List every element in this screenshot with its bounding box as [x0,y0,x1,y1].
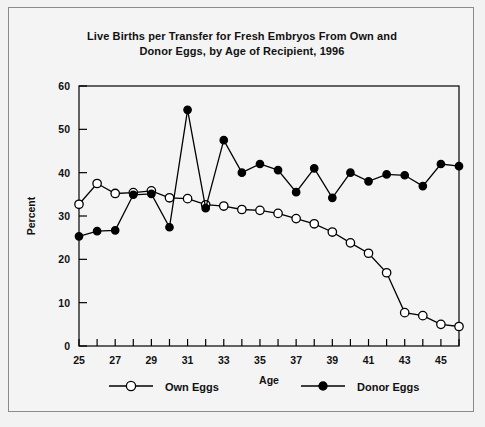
x-tick-label: 33 [218,354,230,366]
data-point-own-eggs [328,228,336,236]
data-point-donor-eggs [383,171,390,178]
data-point-donor-eggs [148,190,155,197]
line-chart-plot: 01020304050602527293133353739414345AgePe… [9,8,475,413]
data-point-own-eggs [401,308,409,316]
x-tick-label: 29 [146,354,158,366]
data-point-own-eggs [455,322,463,330]
data-point-own-eggs [111,189,119,197]
y-tick-label: 10 [58,297,70,309]
data-point-own-eggs [220,202,228,210]
data-point-own-eggs [437,320,445,328]
data-point-donor-eggs [311,165,318,172]
x-tick-label: 45 [435,354,447,366]
series-line-own-eggs [79,184,459,327]
data-point-donor-eggs [419,182,426,189]
y-tick-label: 0 [64,340,70,352]
y-axis-title: Percent [25,196,37,235]
y-tick-label: 40 [58,167,70,179]
data-point-own-eggs [382,269,390,277]
data-point-donor-eggs [455,162,462,169]
data-point-own-eggs [292,214,300,222]
data-point-own-eggs [346,239,354,247]
data-point-donor-eggs [220,136,227,143]
data-point-own-eggs [238,205,246,213]
y-tick-label: 30 [58,210,70,222]
x-tick-label: 27 [109,354,121,366]
x-axis-title: Age [259,374,279,386]
x-tick-label: 37 [290,354,302,366]
x-tick-label: 41 [363,354,375,366]
data-point-own-eggs [256,206,264,214]
legend-label-own-eggs: Own Eggs [165,381,219,393]
x-tick-label: 43 [399,354,411,366]
data-point-donor-eggs [202,205,209,212]
data-point-donor-eggs [401,172,408,179]
legend-marker-own-eggs [126,381,135,390]
data-point-donor-eggs [292,188,299,195]
data-point-donor-eggs [93,227,100,234]
data-point-donor-eggs [347,169,354,176]
figure-frame: Live Births per Transfer for Fresh Embry… [8,7,474,412]
data-point-donor-eggs [365,178,372,185]
data-point-own-eggs [310,220,318,228]
data-point-donor-eggs [130,191,137,198]
x-tick-label: 31 [182,354,194,366]
y-tick-label: 20 [58,253,70,265]
data-point-own-eggs [419,311,427,319]
y-tick-label: 60 [58,80,70,92]
y-tick-label: 50 [58,123,70,135]
data-point-donor-eggs [238,169,245,176]
data-point-donor-eggs [184,106,191,113]
data-point-donor-eggs [437,160,444,167]
x-tick-label: 35 [254,354,266,366]
data-point-own-eggs [93,179,101,187]
data-point-own-eggs [364,249,372,257]
data-point-donor-eggs [256,160,263,167]
data-point-donor-eggs [329,194,336,201]
data-point-donor-eggs [111,227,118,234]
data-point-own-eggs [75,200,83,208]
data-point-own-eggs [183,194,191,202]
data-point-own-eggs [274,209,282,217]
legend-marker-donor-eggs [319,382,327,390]
legend-label-donor-eggs: Donor Eggs [357,381,419,393]
data-point-donor-eggs [75,233,82,240]
x-tick-label: 25 [73,354,85,366]
data-point-donor-eggs [166,224,173,231]
x-tick-label: 39 [326,354,338,366]
data-point-donor-eggs [274,166,281,173]
data-point-own-eggs [165,194,173,202]
